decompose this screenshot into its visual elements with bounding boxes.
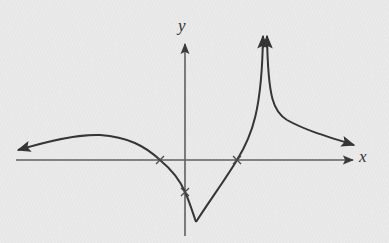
- graph-canvas: x y: [0, 0, 389, 243]
- curve-left-branch: [18, 135, 196, 222]
- graph-svg: [0, 0, 389, 243]
- curve-middle-branch: [196, 36, 263, 222]
- y-axis-label: y: [178, 17, 186, 34]
- x-axis-label: x: [359, 148, 367, 165]
- curve-right-branch-up: [267, 36, 287, 120]
- curve-right-branch-down: [287, 120, 354, 145]
